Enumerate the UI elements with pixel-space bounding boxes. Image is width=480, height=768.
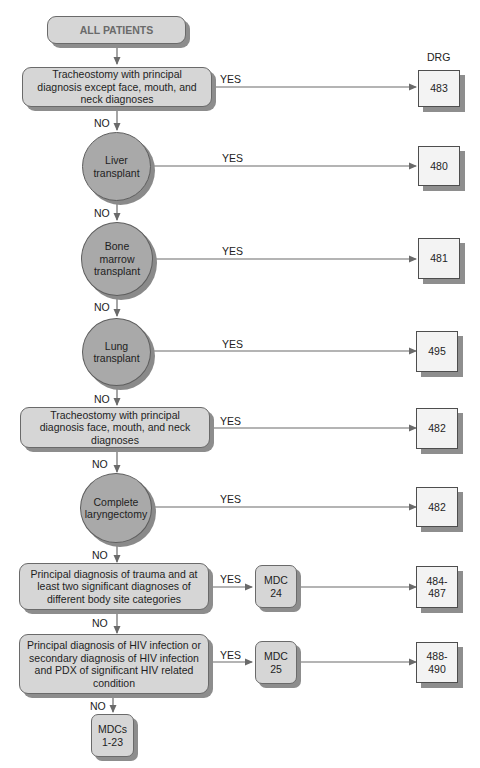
- circle-text: Bone: [105, 240, 130, 253]
- yes-label: YES: [222, 245, 243, 257]
- circle-text: laryngectomy: [85, 508, 147, 521]
- drg-box-480: 480: [418, 146, 460, 186]
- yes-label: YES: [220, 73, 241, 85]
- drg-box-482-b: 482: [416, 487, 458, 527]
- decision-tracheostomy-except: Tracheostomy with principal diagnosis ex…: [22, 67, 212, 107]
- no-label: NO: [90, 700, 106, 712]
- final-text: MDCs: [98, 723, 127, 736]
- no-label: NO: [94, 207, 110, 219]
- drg-text: 484-: [426, 575, 447, 588]
- mdc-text: MDC: [264, 650, 288, 663]
- decision-bone-marrow-transplant: Bone marrow transplant: [81, 222, 153, 296]
- mdc-text: 25: [270, 663, 282, 676]
- circle-text: transplant: [94, 265, 140, 278]
- no-label: NO: [94, 117, 110, 129]
- drg-box-481: 481: [418, 238, 460, 279]
- yes-label: YES: [220, 415, 241, 427]
- circle-text: transplant: [93, 167, 139, 180]
- mdc-text: MDC: [264, 574, 288, 587]
- decision-lung-transplant: Lung transplant: [82, 318, 151, 386]
- no-label: NO: [94, 393, 110, 405]
- no-label: NO: [92, 458, 108, 470]
- circle-text: Liver: [105, 154, 128, 167]
- decision-trauma: Principal diagnosis of trauma and at lea…: [19, 563, 209, 610]
- yes-label: YES: [222, 152, 243, 164]
- drg-header: DRG: [427, 51, 450, 63]
- no-label: NO: [92, 617, 108, 629]
- mdc-text: 24: [270, 587, 282, 600]
- drg-box-482-a: 482: [416, 408, 458, 449]
- start-node: ALL PATIENTS: [47, 16, 186, 44]
- decision-tracheostomy-face-mouth-neck: Tracheostomy with principal diagnosis fa…: [20, 407, 210, 448]
- drg-text: 490: [428, 663, 446, 676]
- drg-box-483: 483: [418, 70, 460, 107]
- drg-box-484-487: 484- 487: [416, 566, 458, 608]
- circle-text: Complete: [94, 496, 139, 509]
- drg-text: 488-: [426, 650, 447, 663]
- drg-box-488-490: 488- 490: [416, 642, 458, 683]
- circle-text: Lung: [105, 340, 128, 353]
- final-text: 1-23: [102, 736, 123, 749]
- final-mdcs-1-23: MDCs 1-23: [91, 714, 134, 757]
- decision-liver-transplant: Liver transplant: [82, 132, 151, 201]
- yes-label: YES: [220, 649, 241, 661]
- decision-hiv: Principal diagnosis of HIV infection or …: [19, 634, 209, 694]
- no-label: NO: [92, 549, 108, 561]
- no-label: NO: [94, 301, 110, 313]
- mdc-25-box: MDC 25: [255, 641, 297, 684]
- yes-label: YES: [220, 493, 241, 505]
- drg-box-495: 495: [416, 331, 458, 372]
- yes-label: YES: [220, 573, 241, 585]
- circle-text: transplant: [93, 352, 139, 365]
- mdc-24-box: MDC 24: [255, 565, 297, 608]
- yes-label: YES: [222, 338, 243, 350]
- drg-text: 487: [428, 587, 446, 600]
- decision-complete-laryngectomy: Complete laryngectomy: [80, 473, 152, 543]
- circle-text: marrow: [99, 253, 134, 266]
